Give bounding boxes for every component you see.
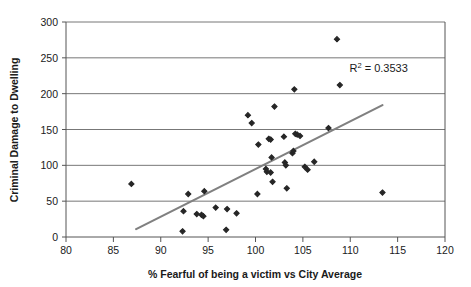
data-point [234, 211, 239, 216]
y-tick-label-300: 300 [40, 16, 58, 28]
y-tick-label-150: 150 [40, 124, 58, 136]
data-point [380, 190, 385, 195]
y-tick-label-50: 50 [46, 195, 58, 207]
data-point [255, 191, 260, 196]
x-axis-ticks [66, 237, 445, 242]
x-tick-label-110: 110 [342, 244, 359, 256]
data-point [270, 179, 275, 184]
data-point [224, 206, 229, 211]
x-tick-label-115: 115 [389, 244, 406, 256]
data-point [186, 191, 191, 196]
x-tick-label-90: 90 [155, 244, 167, 256]
y-tick-label-250: 250 [40, 52, 58, 64]
x-tick-label-120: 120 [436, 244, 454, 256]
data-point [281, 134, 286, 139]
y-axis-ticks [62, 22, 66, 237]
y-tick-label-0: 0 [52, 231, 58, 243]
r-squared-text: R2 = 0.3533 [350, 61, 408, 74]
data-point [181, 209, 186, 214]
r-squared-annotation: R2 = 0.3533 [350, 61, 408, 74]
trendline-path [136, 105, 382, 229]
y-axis-title: Criminal Damage to Dwelling [8, 58, 20, 203]
data-point [194, 211, 199, 216]
x-tick-label-80: 80 [60, 244, 72, 256]
x-tick-label-85: 85 [108, 244, 120, 256]
y-axis-tick-labels: 050100150200250300 [40, 16, 58, 243]
data-point [337, 82, 342, 87]
data-points-group [129, 37, 385, 234]
trendline [136, 105, 382, 229]
scatter-chart: 80859095100105110115120 0501001502002503… [0, 0, 471, 287]
data-point [334, 37, 339, 42]
x-tick-label-95: 95 [202, 244, 214, 256]
y-tick-label-100: 100 [40, 159, 58, 171]
data-point [312, 159, 317, 164]
data-point [213, 205, 218, 210]
y-tick-label-200: 200 [40, 88, 58, 100]
x-tick-label-105: 105 [294, 244, 312, 256]
x-axis-tick-labels: 80859095100105110115120 [60, 244, 454, 256]
data-point [249, 120, 254, 125]
data-point [272, 104, 277, 109]
data-point [224, 227, 229, 232]
x-tick-label-100: 100 [247, 244, 265, 256]
data-point [245, 113, 250, 118]
chart-canvas: 80859095100105110115120 0501001502002503… [0, 0, 471, 287]
x-axis-title: % Fearful of being a victim vs City Aver… [148, 268, 362, 280]
data-point [180, 229, 185, 234]
data-point [292, 87, 297, 92]
gridlines-group [66, 22, 445, 201]
data-point [256, 142, 261, 147]
data-point [284, 186, 289, 191]
data-point [129, 181, 134, 186]
